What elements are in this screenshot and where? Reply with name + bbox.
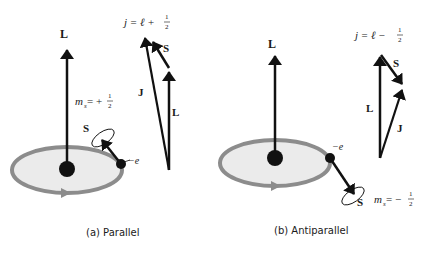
spin-S-vector [330,158,354,194]
svg-text:1: 1 [398,26,402,34]
svg-text:L: L [172,106,179,118]
nucleus [267,150,283,166]
panel-antiparallel: L −e S m s = − 1 2 S L J j = ℓ − 1 2 [220,26,414,236]
svg-text:m: m [75,95,83,107]
electron-label: −e [332,141,344,152]
nucleus [59,161,75,177]
electron-label: −e [128,155,140,166]
svg-text:S: S [163,42,169,54]
caption-antiparallel: (b) Antiparallel [274,225,348,236]
spin-orbit-diagram: L −e S m s = + 1 2 S J L j = ℓ + [0,0,424,253]
svg-text:j = ℓ −: j = ℓ − [353,29,386,41]
orbital-L-label: L [268,37,276,51]
svg-text:L: L [366,102,373,114]
svg-text:= −: = − [386,193,401,205]
svg-text:2: 2 [165,23,169,31]
j-equation-parallel: j = ℓ + 1 2 [122,13,170,31]
spin-S-label: S [357,196,363,208]
svg-text:J: J [138,86,144,98]
svg-text:1: 1 [409,190,413,198]
spin-precession-ellipse [89,126,117,151]
sum-J-vector [145,38,169,170]
ms-label: m s = + 1 2 [75,92,113,110]
vector-sum-parallel: S J L [138,38,179,170]
vector-sum-antiparallel: S L J [366,55,403,158]
svg-text:J: J [397,122,403,134]
svg-text:1: 1 [165,13,169,21]
j-equation-antiparallel: j = ℓ − 1 2 [353,26,403,44]
ms-label: m s = − 1 2 [374,190,414,208]
svg-text:= +: = + [87,95,102,107]
caption-parallel: (a) Parallel [86,227,140,238]
svg-text:2: 2 [398,36,402,44]
svg-text:2: 2 [108,102,112,110]
svg-text:1: 1 [108,92,112,100]
panel-parallel: L −e S m s = + 1 2 S J L j = ℓ + [12,13,179,238]
svg-text:j = ℓ +: j = ℓ + [122,16,155,28]
svg-text:S: S [393,57,399,69]
svg-text:m: m [374,193,382,205]
orbital-L-label: L [60,27,68,41]
spin-S-label: S [83,122,89,134]
svg-text:2: 2 [409,200,413,208]
